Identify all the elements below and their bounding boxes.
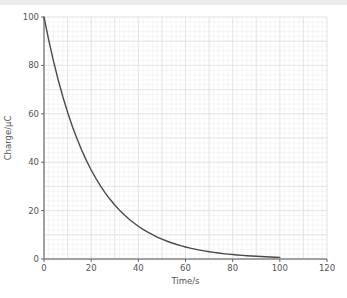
x-tick-label: 100: [272, 263, 288, 273]
x-tick-label: 60: [180, 263, 191, 273]
x-tick-label: 20: [86, 263, 97, 273]
y-tick-label: 40: [28, 157, 39, 167]
y-tick-label: 20: [28, 206, 39, 216]
x-axis-label: Time/s: [0, 276, 347, 286]
charge-decay-chart: 020406080100120020406080100: [0, 0, 347, 298]
x-tick-label: 120: [319, 263, 335, 273]
y-tick-label: 60: [28, 109, 39, 119]
x-tick-label: 40: [133, 263, 144, 273]
y-axis-label: Charge/µC: [3, 88, 13, 188]
y-tick-label: 100: [23, 12, 39, 22]
chart-screenshot: 020406080100120020406080100 Time/s Charg…: [0, 0, 347, 298]
x-tick-label: 80: [227, 263, 238, 273]
x-tick-label: 0: [41, 263, 46, 273]
y-tick-label: 0: [34, 254, 39, 264]
y-tick-label: 80: [28, 60, 39, 70]
